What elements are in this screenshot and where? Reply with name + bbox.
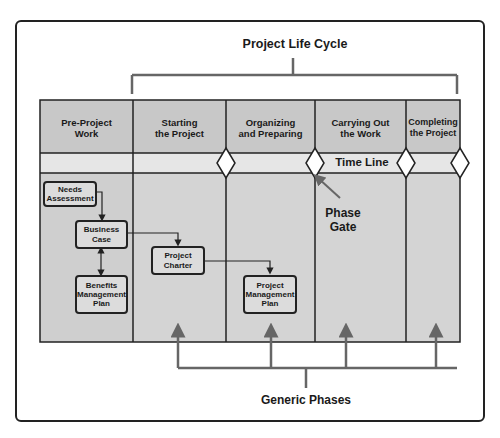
column-header-completing: Completingthe Project <box>406 117 460 139</box>
generic-phases-label: Generic Phases <box>240 393 372 407</box>
life-cycle-title: Project Life Cycle <box>220 37 370 52</box>
column-header-carrying-out: Carrying Outthe Work <box>315 117 406 140</box>
timeline-label: Time Line <box>326 156 398 170</box>
column-header-organizing: Organizingand Preparing <box>226 117 315 140</box>
diagram-graphics <box>0 0 500 438</box>
business-case-box: BusinessCase <box>75 220 128 249</box>
project-charter-box: ProjectCharter <box>151 246 205 275</box>
project-management-plan-box: ProjectManagementPlan <box>243 275 297 314</box>
column-header-pre-project: Pre-ProjectWork <box>40 117 133 140</box>
benefits-management-plan-box: BenefitsManagementPlan <box>75 275 128 314</box>
life-cycle-bracket <box>132 58 457 94</box>
column-header-starting: Startingthe Project <box>133 117 226 140</box>
phase-gate-label: PhaseGate <box>318 206 368 235</box>
needs-assessment-box: NeedsAssessment <box>43 181 97 207</box>
